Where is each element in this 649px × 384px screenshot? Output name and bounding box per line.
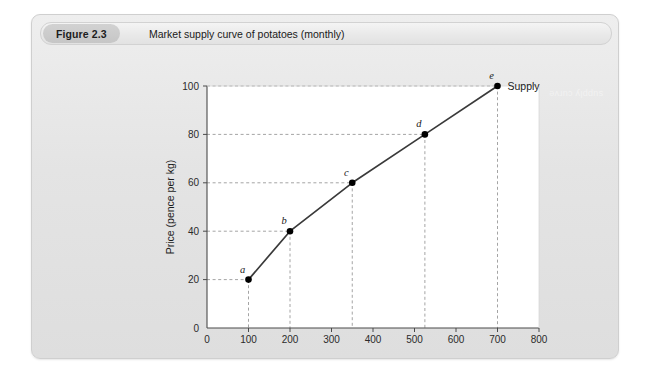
- x-tick-label: 800: [531, 334, 548, 345]
- x-tick-label: 700: [489, 334, 506, 345]
- x-axis-ticks: 0100200300400500600700800: [204, 328, 548, 345]
- figure-caption: Market supply curve of potatoes (monthly…: [149, 23, 345, 44]
- data-point-label: d: [416, 118, 422, 129]
- figure-number-pill: Figure 2.3: [43, 24, 120, 43]
- data-point-marker: [494, 83, 501, 90]
- x-tick-label: 0: [204, 334, 210, 345]
- data-point-label: b: [281, 215, 286, 226]
- figure-header-bar: Figure 2.3 Market supply curve of potato…: [40, 22, 612, 45]
- series-label-supply: Supply: [508, 80, 541, 92]
- x-tick-label: 300: [323, 334, 340, 345]
- x-tick-label: 400: [365, 334, 382, 345]
- y-tick-label: 60: [188, 177, 200, 188]
- y-tick-label: 100: [182, 81, 199, 92]
- y-tick-label: 40: [188, 226, 200, 237]
- y-tick-label: 80: [188, 129, 200, 140]
- plot-background: [207, 86, 539, 328]
- x-tick-label: 500: [406, 334, 423, 345]
- y-axis-title: Price (pence per kg): [164, 160, 176, 255]
- figure-card: Figure 2.3 Market supply curve of potato…: [31, 14, 619, 359]
- y-axis-ticks: 020406080100: [182, 81, 207, 334]
- data-point-marker: [422, 131, 429, 138]
- data-point-label: e: [489, 70, 494, 81]
- chart-plot-area: 0100200300400500600700800020406080100Qua…: [41, 49, 611, 351]
- y-tick-label: 0: [193, 323, 199, 334]
- data-point-marker: [245, 276, 252, 283]
- x-axis-title: Quantity (tonnes: 000s): [318, 350, 427, 351]
- y-tick-label: 20: [188, 274, 200, 285]
- data-point-marker: [349, 180, 356, 187]
- data-point-label: c: [344, 167, 349, 178]
- x-tick-label: 100: [240, 334, 257, 345]
- x-tick-label: 200: [282, 334, 299, 345]
- supply-curve-chart: 0100200300400500600700800020406080100Qua…: [41, 49, 611, 351]
- data-point-label: a: [240, 264, 245, 275]
- x-tick-label: 600: [448, 334, 465, 345]
- data-point-marker: [287, 228, 294, 235]
- page-root: Figure 2.3 Market supply curve of potato…: [0, 0, 649, 384]
